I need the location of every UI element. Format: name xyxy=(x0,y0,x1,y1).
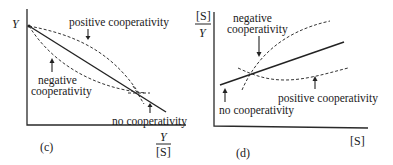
panel-c-no-cooperativity-line xyxy=(29,26,166,112)
panel-d-positive-curve xyxy=(238,68,348,80)
panel-d-negative-label-line2: cooperativity xyxy=(227,23,288,36)
panel-c-y-axis-label: Y xyxy=(12,17,20,31)
panel-c-x-axis-label-denominator: [S] xyxy=(156,145,171,159)
panel-d-no-cooperativity-line xyxy=(220,42,344,85)
panel-d-none-label: no cooperativity xyxy=(219,104,294,117)
panel-c-negative-label-line2: cooperativity xyxy=(31,85,92,98)
panel-d-y-axis-label-numerator: [S] xyxy=(196,9,211,23)
cooperativity-diagram: Y positive cooperativity negative cooper… xyxy=(0,0,393,165)
panel-c-tail-steep xyxy=(133,86,144,104)
panel-c-origin-dot xyxy=(27,24,30,27)
arrow-down-icon xyxy=(257,52,262,57)
panel-c-tag: (c) xyxy=(40,140,53,154)
panel-c-positive-label: positive cooperativity xyxy=(69,16,169,29)
panel-c: Y positive cooperativity negative cooper… xyxy=(12,9,187,159)
panel-c-x-axis-label-numerator: Y xyxy=(160,130,168,144)
arrow-up-icon xyxy=(50,58,55,63)
panel-c-none-label: no cooperativity xyxy=(112,115,187,128)
arrow-up-icon xyxy=(223,88,228,93)
panel-d-x-axis-label: [S] xyxy=(350,134,365,148)
panel-d-y-axis-label-denominator: Y xyxy=(199,26,207,40)
panel-d: [S] Y negative cooperativity positive co… xyxy=(195,9,378,160)
panel-d-tag: (d) xyxy=(236,146,250,160)
arrow-down-icon xyxy=(86,36,91,40)
